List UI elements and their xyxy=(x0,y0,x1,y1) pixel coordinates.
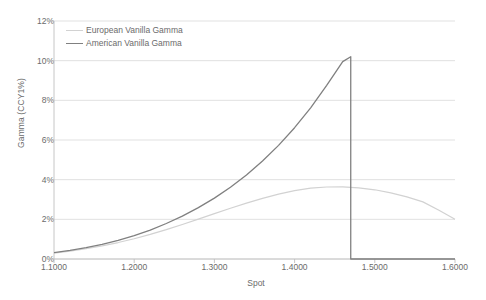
series-lines xyxy=(54,57,455,259)
series-line-1 xyxy=(54,187,455,253)
grid-lines xyxy=(54,21,455,259)
plot-area xyxy=(0,0,486,300)
axis-tick-marks xyxy=(50,21,455,263)
figure-caption xyxy=(26,292,466,300)
series-line-2 xyxy=(54,57,455,259)
chart-figure: Gamma (CCY1%) Spot 0%2%4%6%8%10%12% 1.10… xyxy=(0,0,486,300)
